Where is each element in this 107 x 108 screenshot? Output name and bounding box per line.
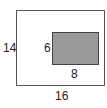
inner-height-label: 6 [44,42,51,54]
inner-width-label: 8 [71,68,78,80]
inner-shaded-rectangle [52,32,99,65]
outer-width-label: 16 [55,90,68,102]
outer-height-label: 14 [3,42,16,54]
